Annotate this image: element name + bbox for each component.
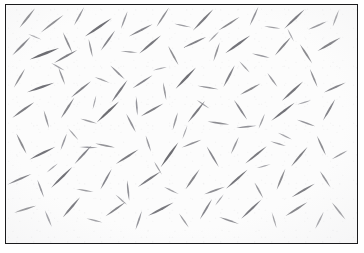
needle-crystal	[100, 30, 116, 51]
needle-crystal	[172, 112, 179, 130]
needle-crystal	[132, 74, 153, 89]
needle-crystal	[270, 102, 295, 122]
needle-crystal	[192, 9, 214, 32]
needle-crystal	[115, 149, 139, 165]
needle-crystal	[70, 80, 91, 98]
needle-crystal	[68, 128, 79, 140]
needle-crystal	[128, 23, 153, 37]
needle-crystal	[199, 199, 213, 220]
needle-crystal	[331, 150, 348, 160]
needle-crystal	[88, 39, 94, 58]
micrograph-frame	[5, 4, 358, 244]
needle-crystal	[258, 114, 266, 129]
needle-crystal	[135, 97, 138, 116]
needle-crystal	[60, 133, 68, 150]
needle-crystal	[44, 210, 52, 227]
needle-crystal	[162, 82, 167, 100]
needle-crystal	[153, 66, 167, 71]
needle-crystal	[96, 100, 120, 123]
needle-crystal	[80, 146, 98, 148]
needle-crystal	[156, 7, 170, 27]
needle-crystal	[197, 85, 218, 90]
needle-crystal	[92, 95, 97, 109]
needle-crystal	[175, 67, 197, 90]
needle-crystal	[58, 67, 66, 85]
needle-crystal	[51, 62, 65, 71]
needle-crystal	[46, 163, 58, 173]
needle-crystal	[285, 201, 308, 217]
needle-crystal	[110, 65, 126, 80]
needle-crystal	[240, 199, 262, 219]
needle-crystal	[178, 213, 189, 228]
needle-crystal	[284, 9, 306, 30]
needle-crystal	[225, 35, 251, 55]
needle-crystal	[254, 182, 264, 198]
needle-crystal	[120, 11, 128, 29]
needle-crystal	[274, 36, 292, 56]
needle-crystal	[12, 101, 35, 118]
needle-crystal	[287, 28, 294, 41]
needle-crystal	[50, 166, 73, 188]
needle-crystal	[291, 183, 315, 198]
needle-crystal	[43, 110, 50, 128]
needle-crystal	[12, 36, 32, 56]
needle-crystal	[13, 68, 26, 88]
needle-crystal	[324, 82, 347, 94]
needle-crystal	[233, 100, 248, 121]
needle-crystal	[99, 168, 112, 190]
needle-crystal	[278, 132, 292, 140]
needle-crystal	[230, 137, 239, 155]
needle-crystal	[80, 118, 97, 124]
needle-crystal	[84, 17, 112, 37]
needle-crystal	[14, 205, 37, 214]
needle-crystal	[208, 31, 220, 43]
needle-crystal	[222, 65, 235, 88]
needle-layer	[7, 6, 348, 230]
needle-crystal	[86, 218, 102, 223]
needle-crystal	[239, 61, 250, 73]
needle-crystal	[182, 36, 206, 49]
needle-crystal	[309, 69, 318, 88]
needle-crystal	[314, 212, 324, 230]
needle-crystal	[145, 135, 152, 152]
needle-crystal	[252, 53, 270, 59]
needle-crystal	[137, 171, 161, 188]
needle-crystal	[28, 33, 42, 40]
needle-crystal	[297, 100, 311, 106]
needle-crystal	[135, 211, 143, 230]
needle-crystal	[204, 186, 225, 195]
needle-crystal	[167, 46, 179, 66]
needle-crystal	[111, 79, 129, 103]
needle-crystal	[19, 8, 36, 29]
micrograph-figure	[0, 0, 364, 253]
needle-crystal	[181, 139, 201, 148]
needle-crystal	[62, 197, 81, 219]
needle-crystal	[240, 83, 261, 96]
needle-crystal	[219, 216, 239, 225]
needle-crystal	[299, 44, 313, 64]
needle-crystal	[115, 194, 127, 205]
needle-crystal	[213, 42, 221, 61]
needle-crystal	[125, 113, 136, 132]
needle-crystal	[245, 145, 268, 164]
needle-crystal	[7, 173, 32, 185]
needle-crystal	[148, 202, 175, 217]
needle-crystal	[319, 170, 331, 188]
needle-crystal	[215, 194, 225, 206]
needle-crystal	[62, 32, 73, 53]
needle-crystal	[308, 21, 327, 31]
needle-crystal	[139, 34, 162, 54]
needle-crystal	[270, 140, 286, 146]
needle-crystal	[290, 146, 308, 167]
needle-crystal	[267, 73, 278, 88]
needle-crystal	[95, 143, 115, 149]
needle-crystal	[76, 188, 93, 192]
specimen-field	[6, 5, 357, 243]
needle-crystal	[281, 81, 304, 102]
needle-crystal	[218, 16, 240, 31]
needle-crystal	[60, 97, 75, 119]
needle-crystal	[322, 99, 336, 121]
needle-crystal	[257, 164, 271, 169]
needle-crystal	[249, 6, 259, 26]
needle-crystal	[37, 180, 45, 198]
